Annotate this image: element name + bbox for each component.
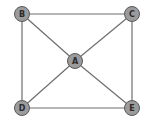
- node-c: C: [125, 7, 140, 22]
- node-a: A: [68, 54, 83, 69]
- graph-diagram: ABCDE: [0, 0, 149, 123]
- edge-b-a: [22, 14, 75, 61]
- node-label: A: [72, 57, 79, 66]
- node-d: D: [15, 101, 30, 116]
- node-label: D: [19, 104, 26, 113]
- node-b: B: [15, 7, 30, 22]
- edge-d-a: [22, 61, 75, 108]
- node-label: B: [19, 10, 25, 19]
- node-label: E: [129, 104, 134, 113]
- edge-c-a: [75, 14, 132, 61]
- node-e: E: [125, 101, 140, 116]
- node-label: C: [129, 10, 135, 19]
- edge-e-a: [75, 61, 132, 108]
